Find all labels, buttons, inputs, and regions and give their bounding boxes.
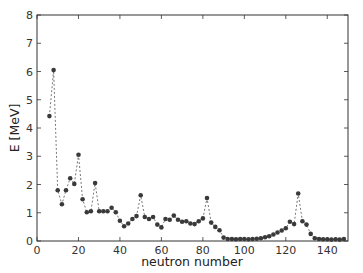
data-point	[159, 225, 164, 230]
data-point	[105, 209, 110, 214]
data-series-line	[49, 70, 344, 240]
data-point	[97, 209, 102, 214]
data-point	[250, 237, 255, 242]
data-point	[313, 236, 318, 241]
data-point	[72, 182, 77, 187]
data-point	[296, 191, 301, 196]
y-tick-label: 2	[26, 179, 33, 192]
data-point	[308, 232, 313, 237]
data-point	[47, 114, 52, 119]
data-point	[192, 222, 197, 227]
data-point	[238, 237, 243, 242]
data-point	[93, 181, 98, 186]
y-tick-label: 6	[26, 66, 33, 79]
y-axis-label: E [MeV]	[7, 104, 22, 153]
data-point	[55, 188, 60, 193]
plot-border	[37, 15, 348, 241]
data-point	[109, 205, 114, 210]
data-point	[288, 220, 293, 225]
data-point	[333, 237, 338, 242]
data-point	[76, 153, 81, 158]
data-point	[68, 176, 73, 181]
data-point	[51, 68, 56, 73]
data-point	[118, 218, 123, 223]
data-point	[134, 214, 139, 219]
data-point	[89, 209, 94, 214]
data-point	[221, 235, 226, 240]
data-point	[122, 224, 127, 229]
data-point	[167, 218, 172, 223]
axis-ticks	[37, 15, 348, 241]
series-dashed-line	[49, 70, 344, 240]
data-point	[225, 237, 230, 242]
data-point	[242, 237, 247, 242]
data-point	[188, 221, 193, 226]
data-point	[205, 196, 210, 201]
data-point	[60, 202, 65, 207]
x-tick-label: 120	[275, 244, 296, 257]
data-point	[155, 222, 160, 227]
data-point	[217, 228, 222, 233]
data-series-markers	[47, 68, 346, 242]
y-tick-labels: 012345678	[26, 9, 33, 248]
data-point	[130, 217, 135, 222]
data-point	[85, 210, 90, 215]
data-point	[317, 237, 322, 242]
data-point	[321, 237, 326, 242]
data-point	[163, 217, 168, 222]
data-point	[138, 193, 143, 198]
data-point	[126, 221, 131, 226]
x-tick-label: 140	[317, 244, 338, 257]
data-point	[292, 222, 297, 227]
data-point	[180, 220, 185, 225]
x-tick-label: 40	[113, 244, 127, 257]
data-point	[151, 215, 156, 220]
y-tick-label: 4	[26, 122, 33, 135]
data-point	[259, 236, 264, 241]
data-point	[342, 237, 347, 242]
data-point	[271, 232, 276, 237]
data-point	[114, 210, 119, 215]
data-point	[201, 216, 206, 221]
data-point	[147, 217, 152, 222]
data-point	[329, 237, 334, 242]
y-tick-label: 7	[26, 37, 33, 50]
data-point	[184, 219, 189, 224]
data-point	[230, 237, 235, 242]
data-point	[284, 226, 289, 231]
x-tick-label: 0	[34, 244, 41, 257]
data-point	[234, 237, 239, 242]
y-tick-label: 0	[26, 235, 33, 248]
data-point	[172, 213, 177, 218]
data-point	[254, 236, 259, 241]
data-point	[337, 237, 342, 242]
data-point	[101, 209, 106, 214]
chart-canvas: 020406080100120140 012345678 neutron num…	[0, 0, 363, 273]
data-point	[304, 222, 309, 227]
data-point	[263, 235, 268, 240]
y-tick-label: 1	[26, 207, 33, 220]
data-point	[325, 237, 330, 242]
plot-frame	[37, 15, 348, 241]
data-point	[143, 215, 148, 220]
data-point	[209, 220, 214, 225]
data-point	[279, 228, 284, 233]
x-axis-label: neutron number	[141, 254, 243, 269]
data-point	[246, 237, 251, 242]
y-tick-label: 8	[26, 9, 33, 22]
y-tick-label: 5	[26, 94, 33, 107]
data-point	[176, 218, 181, 223]
data-point	[300, 219, 305, 224]
data-point	[267, 234, 272, 239]
data-point	[196, 219, 201, 224]
x-tick-label: 20	[71, 244, 85, 257]
data-point	[64, 188, 69, 193]
y-tick-label: 3	[26, 150, 33, 163]
data-point	[80, 197, 85, 202]
data-point	[275, 230, 280, 235]
data-point	[213, 225, 218, 230]
